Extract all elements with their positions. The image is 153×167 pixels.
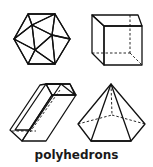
- cube: [92, 15, 142, 65]
- rectangular-prism: [10, 84, 76, 141]
- pentagonal-pyramid: [78, 84, 145, 141]
- figure-caption: polyhedrons: [0, 148, 153, 162]
- polyhedrons-figure: [0, 0, 153, 167]
- icosahedron: [14, 14, 70, 64]
